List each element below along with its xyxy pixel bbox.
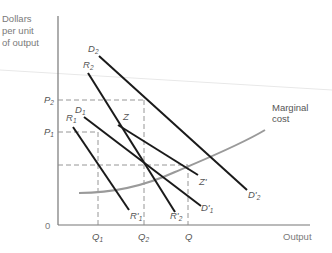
marginal-cost-label-line-1: Marginal bbox=[272, 102, 308, 113]
d1-start-label: D1 bbox=[75, 104, 86, 116]
origin-label: 0 bbox=[45, 220, 50, 231]
q1-label: Q1 bbox=[92, 231, 103, 243]
r2-end-label: R'2 bbox=[170, 210, 183, 222]
r2-start-label: R2 bbox=[83, 59, 94, 71]
z-start-label: Z bbox=[122, 111, 130, 122]
x-axis-label: Output bbox=[283, 231, 312, 242]
p2-label: P2 bbox=[44, 94, 54, 106]
d2-start-label: D2 bbox=[88, 43, 99, 55]
economics-diagram: Dollars per unit of output Output 0 P2 P… bbox=[0, 0, 332, 253]
y-axis-label-line-1: Dollars bbox=[2, 13, 32, 24]
y-axis-label-line-3: of output bbox=[2, 37, 39, 48]
d2-end-label: D'2 bbox=[248, 189, 261, 201]
r1-curve bbox=[73, 127, 129, 210]
z-end-label: Z' bbox=[198, 176, 208, 187]
r1-end-label: R'1 bbox=[130, 210, 143, 222]
y-axis-label-line-2: per unit bbox=[2, 25, 34, 36]
q2-label: Q2 bbox=[138, 231, 149, 243]
scan-artifact-line bbox=[0, 70, 332, 90]
q-label: Q bbox=[185, 231, 193, 242]
d2-curve bbox=[99, 56, 247, 190]
marginal-cost-label-line-2: cost bbox=[272, 113, 290, 124]
z-curve bbox=[118, 125, 198, 175]
p1-label: P1 bbox=[44, 126, 54, 138]
d1-end-label: D'1 bbox=[201, 202, 214, 214]
